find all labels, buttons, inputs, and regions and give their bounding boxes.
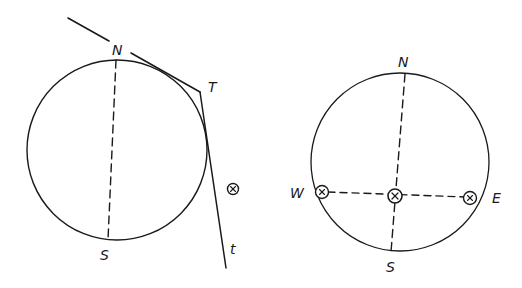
right-ns-axis [391,74,405,252]
right-circle [311,73,489,251]
circled-x-center-icon [388,189,402,203]
circled-x-west-icon [316,186,329,199]
tangent-line-upper-right [131,53,200,92]
circled-x-icon [228,184,239,195]
left-ns-axis [108,60,116,240]
right-label-south: S [386,259,395,275]
left-label-north: N [112,42,123,58]
left-label-tangent-point: T [208,79,218,95]
tangent-line-t [200,92,226,268]
left-circle [27,60,207,240]
left-label-south: S [100,247,109,263]
tangent-line-upper-left [68,18,109,41]
left-label-tangent-line: t [230,241,236,257]
circled-x-east-icon [464,192,477,205]
right-label-east: E [492,190,501,206]
right-label-west: W [290,185,305,201]
diagram-canvas: N S T t N S W E [0,0,522,288]
right-label-north: N [398,54,409,70]
